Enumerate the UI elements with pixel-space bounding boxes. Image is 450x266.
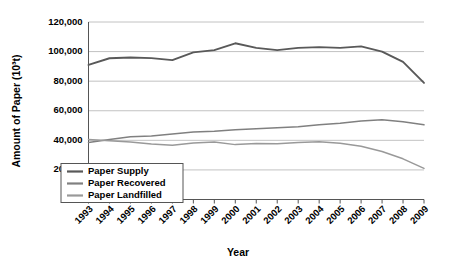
x-tick-label: 1994 <box>93 203 116 226</box>
legend-label-3: Paper Landfilled <box>88 189 162 200</box>
y-tick-label: 60,000 <box>53 104 82 115</box>
x-tick-labels-group: 1993199419951996199719981999200020012002… <box>72 203 430 226</box>
y-axis-title: Amount of Paper (10³t) <box>10 54 22 167</box>
x-tick-label: 1999 <box>198 203 221 226</box>
chart-legend[interactable]: Paper SupplyPaper RecoveredPaper Landfil… <box>61 164 183 203</box>
x-tick-label: 2007 <box>366 203 389 226</box>
x-tick-label: 1993 <box>72 203 95 226</box>
data-series-group <box>89 43 425 168</box>
x-tick-label: 2000 <box>219 203 242 226</box>
line-chart: 020,00040,00060,00080,000100,000120,000 … <box>0 0 450 266</box>
legend-label-1: Paper Supply <box>88 165 149 176</box>
x-tick-label: 1995 <box>114 203 137 226</box>
x-tick-label: 2003 <box>282 203 305 226</box>
x-tick-label: 2006 <box>345 203 368 226</box>
y-tick-label: 120,000 <box>48 16 82 27</box>
legend-label-2: Paper Recovered <box>88 177 166 188</box>
chart-container: 020,00040,00060,00080,000100,000120,000 … <box>0 0 450 266</box>
x-tick-label: 1996 <box>135 203 158 226</box>
x-tick-label: 2005 <box>324 203 347 226</box>
x-tick-label: 2009 <box>408 203 431 226</box>
x-tick-label: 2008 <box>387 203 410 226</box>
x-tick-label: 2004 <box>303 203 326 226</box>
x-tick-label: 2002 <box>261 203 284 226</box>
series-line-paper-supply <box>89 43 425 83</box>
x-tick-label: 1998 <box>177 203 200 226</box>
x-axis-title: Year <box>227 246 249 258</box>
y-tick-label: 80,000 <box>53 75 82 86</box>
y-tick-label: 100,000 <box>48 45 82 56</box>
x-tick-label: 2001 <box>240 203 263 226</box>
x-tick-label: 1997 <box>156 203 179 226</box>
y-tick-label: 40,000 <box>53 134 82 145</box>
series-line-paper-recovered <box>89 120 425 143</box>
